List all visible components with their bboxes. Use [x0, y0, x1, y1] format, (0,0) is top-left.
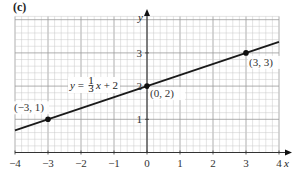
y-tick-label: 1 [137, 113, 143, 125]
equation-denominator: 3 [88, 82, 94, 94]
data-point-marker [243, 50, 249, 56]
x-axis-label: x [283, 157, 289, 169]
equation-lhs: y = [69, 79, 84, 91]
x-tick-label: 4 [276, 157, 282, 169]
data-point-marker [45, 117, 51, 123]
x-tick-label: 2 [210, 157, 216, 169]
y-tick-label: 3 [137, 47, 143, 59]
point-label: (0, 2) [150, 87, 174, 100]
tick-labels: −4−3−2−101234123 [9, 47, 282, 169]
x-tick-label: 1 [177, 157, 183, 169]
x-axis-arrow-icon [285, 150, 292, 156]
equation-rhs: x + 2 [95, 79, 118, 91]
x-tick-label: −1 [108, 157, 120, 169]
x-tick-label: −3 [42, 157, 54, 169]
line-chart: xy −4−3−2−101234123 y =13x + 2 (−3, 1)(0… [0, 0, 296, 175]
y-tick-label: 2 [137, 80, 143, 92]
y-axis-arrow-icon [144, 9, 150, 16]
equation-label: y =13x + 2 [68, 74, 120, 94]
x-tick-label: 3 [243, 157, 249, 169]
x-tick-label: 0 [144, 157, 150, 169]
x-tick-label: −4 [9, 157, 21, 169]
point-label: (−3, 1) [14, 101, 44, 114]
x-tick-label: −2 [75, 157, 87, 169]
data-point-marker [144, 83, 150, 89]
point-label: (3, 3) [249, 56, 273, 69]
y-axis-label: y [137, 11, 143, 23]
